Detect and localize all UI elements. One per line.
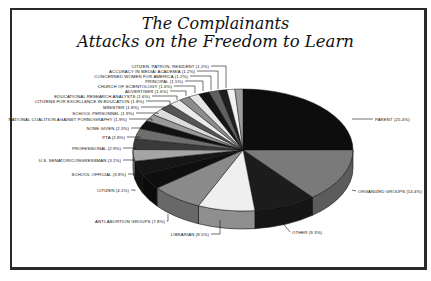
slice-label: EDUCATIONAL RESEARCH ANALYSTS (1.6%) [54,94,150,99]
leader-line [128,174,134,176]
slice-label: PRINCIPAL (1.5%) [145,79,183,84]
slice-label: MINISTER (1.8%) [103,105,139,110]
slice-label: CONCERNED WOMEN FOR AMERICA (1.2%) [94,74,188,79]
slice-label: CITIZEN (4.1%) [97,188,129,193]
slice-label: ACCURACY IN MEDIA/ ACADEMIA (1.2%) [109,69,195,74]
leader-line [190,76,211,90]
leader-line [146,101,170,104]
slice-label: ORGANIZED GROUPS (14.4%) [358,189,422,194]
pie-chart: PARENT (25.4%)ORGANIZED GROUPS (14.4%)OT… [0,0,431,281]
leader-line [170,91,186,96]
leader-line [123,160,134,161]
leader-line [141,107,165,108]
slice-label: OTHER (9.3%) [292,230,323,235]
slice-label: ANTI-ABORTION GROUPS (7.8%) [95,219,165,224]
slice-label: PTA (2.8%) [102,135,125,140]
leader-line [174,86,195,93]
slice-label: PARENT (25.4%) [375,117,410,122]
leader-line [352,190,356,191]
leader-line [152,96,177,100]
leader-line [167,214,168,221]
slice-label: SCHOOL PERSONNEL (1.9%) [72,111,134,116]
slice-label: NONE GIVEN (2.3%) [86,126,129,131]
leader-line [131,190,135,191]
leader-line [197,71,218,89]
slice-label: ADVERTISER (1.6%) [125,89,168,94]
slice-label: CITIZENS FOR EXCELLENCE IN EDUCATION (1.… [35,99,145,104]
pie-top-face [133,89,353,211]
slice-label: LIBRARIAN (8.5%) [171,232,210,237]
slice-label: NATIONAL COALITION AGAINST PORNOGRAPHY (… [9,117,128,122]
slice-label: PROFESSIONAL (2.9%) [72,146,121,151]
slice-label: U.S. SENATOR/CONGRESSMAN (3.1%) [39,158,122,163]
slice-label: CHURCH OF SCIENTOLOGY (1.6%) [97,84,172,89]
leader-line [211,66,226,88]
pie-slice [243,89,353,150]
slice-label: CITIZEN, PATRON, RESIDENT (1.2%) [132,64,210,69]
slice-label: SCHOOL OFFICIAL (3.8%) [72,172,127,177]
